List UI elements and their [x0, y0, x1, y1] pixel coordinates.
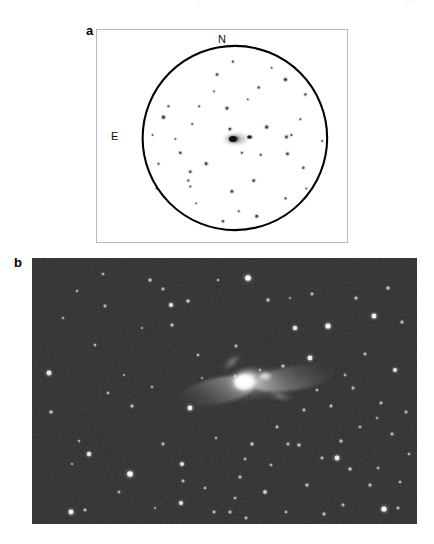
panel-a-star [191, 123, 193, 125]
panel-a-canvas [97, 30, 347, 242]
panel-a-star [205, 162, 208, 165]
panel-b-star [69, 510, 74, 515]
panel-b-star [76, 290, 78, 292]
panel-b-star [321, 457, 324, 460]
panel-b-star [376, 417, 378, 419]
panel-b-star [399, 481, 402, 484]
panel-b-star [245, 517, 248, 520]
panel-b-star [217, 279, 219, 281]
panel-a-star [260, 154, 262, 156]
compass-label-east: E [111, 131, 118, 142]
page-header-right-mark: 475 [404, 0, 416, 6]
panel-b-star [408, 453, 411, 456]
panel-b-star [285, 511, 288, 514]
panel-b-star [405, 411, 408, 414]
panel-b-star [335, 456, 340, 461]
panel-b-star [391, 433, 394, 436]
panel-a-star [252, 179, 255, 182]
panel-b-star [397, 507, 400, 510]
panel-b-star [401, 321, 404, 324]
panel-b-star [188, 406, 193, 411]
panel-b-star [293, 326, 297, 330]
panel-a-star [305, 188, 307, 190]
panel-a-star [167, 105, 169, 107]
panel-b-star [169, 303, 173, 307]
panel-b-star [250, 442, 253, 445]
panel-a-star [241, 152, 243, 154]
figure-root: 2 475 a [0, 0, 434, 544]
panel-b-star [162, 288, 165, 291]
panel-b-star [316, 389, 319, 392]
panel-a-star [189, 170, 192, 173]
panel-b-star [78, 440, 80, 442]
panel-a-star [231, 190, 234, 193]
panel-b-star [344, 374, 347, 377]
panel-a-star [189, 186, 191, 188]
panel-b-star [342, 504, 345, 507]
panel-b-star [364, 353, 367, 356]
panel-b-star [141, 327, 143, 329]
panel-b-star [84, 509, 87, 512]
panel-b-star [131, 405, 134, 408]
panel-b-star [323, 513, 326, 516]
panel-b-star [71, 463, 73, 465]
panel-b-star [386, 286, 389, 289]
panel-b-star [330, 405, 333, 408]
panel-b-canvas [32, 258, 417, 524]
panel-b-star [340, 440, 343, 443]
panel-a-star [321, 140, 323, 142]
panel-b-star [282, 365, 285, 368]
panel-a-star [285, 136, 288, 139]
panel-a-star [238, 210, 240, 212]
panel-b-star [393, 368, 397, 372]
panel-a-star [162, 116, 165, 119]
panel-b-star [244, 458, 247, 461]
panel-b-star [381, 506, 386, 511]
panel-a-star [302, 167, 304, 169]
panel-a-star [284, 197, 286, 199]
panel-b-star [380, 402, 383, 405]
panel-b-star [151, 386, 153, 388]
panel-a-star [271, 67, 273, 69]
panel-b-star [303, 409, 306, 412]
panel-b-star [215, 437, 217, 439]
panel-b-star [123, 374, 125, 376]
panel-b-star [201, 377, 203, 379]
panel-b-star [154, 507, 156, 509]
panel-a-star [198, 105, 200, 107]
panel-a-star [284, 78, 287, 81]
panel-b-star [87, 452, 91, 456]
panel-b-star [186, 299, 189, 302]
panel-b-star [94, 344, 97, 347]
panel-b-star [49, 410, 52, 413]
panel-b-star [287, 443, 290, 446]
panel-a-star [290, 134, 292, 136]
panel-b-star [118, 491, 121, 494]
panel-b-star [355, 297, 358, 300]
panel-a-star [216, 73, 219, 76]
panel-b-star [47, 371, 52, 376]
panel-b-star [297, 443, 300, 446]
panel-b-star [229, 511, 232, 514]
panel-a-star [255, 215, 258, 218]
panel-a-star [195, 202, 197, 204]
panel-a-finder-chart: N E [96, 29, 348, 243]
panel-b-ccd-image [32, 258, 417, 524]
panel-b-star [171, 324, 174, 327]
panel-b-star [234, 497, 237, 500]
compass-label-north: N [218, 34, 226, 45]
panel-b-star [306, 484, 309, 487]
panel-a-star [265, 125, 268, 128]
panel-b-star [107, 392, 110, 395]
panel-b-star [197, 354, 200, 357]
panel-b-star [235, 345, 238, 348]
panel-b-star [263, 490, 267, 494]
panel-b-star [270, 464, 273, 467]
panel-b-star [62, 317, 64, 319]
panel-b-star [102, 273, 105, 276]
panel-b-star [234, 375, 236, 377]
panel-a-letter: a [86, 24, 93, 37]
panel-b-star [182, 480, 185, 483]
panel-a-star [152, 134, 154, 136]
panel-b-star [245, 275, 251, 281]
